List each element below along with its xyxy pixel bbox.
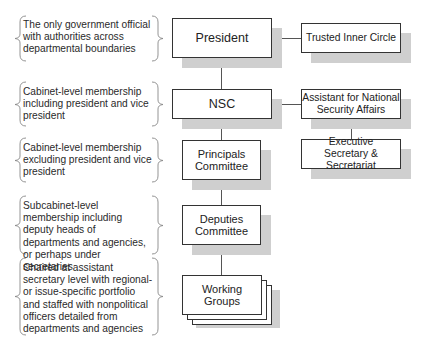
executive-secretary-label: Executive Secretary & Secretariat	[306, 136, 396, 172]
description-president: The only government official with author…	[23, 19, 153, 56]
working-groups-box: Working Groups	[182, 275, 262, 315]
president-box: President	[172, 18, 272, 58]
right-brace-3	[152, 138, 163, 182]
working-groups-label: Working Groups	[183, 283, 261, 308]
trusted-inner-circle-label: Trusted Inner Circle	[306, 32, 396, 44]
description-working-groups: Chaired at assistant secretary level wit…	[23, 262, 153, 335]
nsc-box: NSC	[172, 89, 272, 119]
principals-committee-box: Principals Committee	[182, 140, 261, 180]
description-principals: Cabinet-level membership excluding presi…	[23, 142, 153, 179]
right-brace-4	[152, 196, 163, 254]
assistant-national-security-label: Assistant for National Security Affairs	[302, 92, 400, 116]
deputies-committee-label: Deputies Committee	[193, 213, 250, 238]
assistant-national-security-box: Assistant for National Security Affairs	[301, 89, 401, 119]
nsc-label: NSC	[209, 97, 235, 111]
executive-secretary-box: Executive Secretary & Secretariat	[301, 139, 401, 169]
deputies-committee-box: Deputies Committee	[182, 205, 261, 245]
trusted-inner-circle-box: Trusted Inner Circle	[301, 23, 401, 53]
right-brace-5	[152, 258, 163, 335]
right-brace-2	[152, 82, 163, 126]
principals-committee-label: Principals Committee	[191, 148, 252, 173]
description-nsc: Cabinet-level membership including presi…	[23, 86, 153, 123]
right-brace-1	[152, 16, 163, 61]
president-label: President	[196, 31, 249, 45]
